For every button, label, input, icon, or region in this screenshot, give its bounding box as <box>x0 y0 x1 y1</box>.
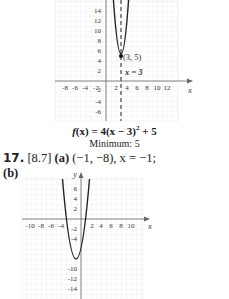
bottom-x-label: -6 <box>48 222 54 230</box>
part-a-label: (a) <box>54 151 69 165</box>
bottom-y-label: -2 <box>71 225 77 233</box>
charts-canvas: 14 12 10 8 6 4 2 2 -4 -6 -8 -6 -4 -2 2 4… <box>0 0 229 299</box>
bottom-x-label: 4 <box>99 222 103 230</box>
bottom-y-label: -14 <box>68 285 78 293</box>
top-x-label: 10 <box>154 84 162 92</box>
top-x-label: 4 <box>125 84 129 92</box>
axis-of-symmetry-label: x = 3 <box>124 67 143 77</box>
bottom-x-label: 8 <box>119 222 123 230</box>
top-y-label: 12 <box>94 17 102 25</box>
problem-section: [8.7] <box>27 151 51 165</box>
top-x-label: -2 <box>93 84 99 92</box>
problem-number: 17. <box>3 151 24 165</box>
top-x-label: -6 <box>72 84 78 92</box>
top-y-label: 10 <box>94 27 102 35</box>
part-b-label: (b) <box>3 166 18 181</box>
bottom-y-label: -4 <box>71 235 77 243</box>
equation-body: (x) = 4(x − 3) <box>76 125 136 137</box>
top-grid <box>55 0 178 121</box>
function-equation: f(x) = 4(x − 3)2 + 5 <box>0 124 229 137</box>
top-x-label: 2 <box>114 84 118 92</box>
bottom-x-label: 6 <box>109 222 113 230</box>
top-y-label: 8 <box>98 37 102 45</box>
top-x-label: 12 <box>164 84 172 92</box>
bottom-chart: 6 4 2 -2 -4 -10 -12 -14 -10 -8 -6 -4 2 4… <box>22 170 152 299</box>
bottom-x-axis-label: x <box>147 222 152 231</box>
bottom-y-axis-label: y <box>72 170 77 179</box>
top-y-label: 2 <box>98 67 102 75</box>
top-x-label: 8 <box>145 84 149 92</box>
top-y-label: 4 <box>98 57 102 65</box>
bottom-y-label: -10 <box>68 265 78 273</box>
vertex-label: (3, 5) <box>123 52 142 62</box>
bottom-y-label: 6 <box>74 185 78 193</box>
bottom-y-axis-arrow-icon <box>79 172 84 178</box>
part-a-answer: (−1, −8), x = −1; <box>72 151 156 165</box>
bottom-x-label: 10 <box>128 222 136 230</box>
bottom-x-label: -4 <box>58 222 64 230</box>
top-x-label: -4 <box>82 84 88 92</box>
bottom-y-label: -12 <box>68 275 78 283</box>
equation-tail: + 5 <box>140 125 157 137</box>
top-chart: 14 12 10 8 6 4 2 2 -4 -6 -8 -6 -4 -2 2 4… <box>55 0 193 121</box>
top-y-label: 6 <box>98 47 102 55</box>
bottom-x-label: -8 <box>38 222 44 230</box>
bottom-y-label: 2 <box>74 205 78 213</box>
problem-17: 17. [8.7] (a) (−1, −8), x = −1; <box>3 151 156 166</box>
bottom-y-label: 4 <box>74 195 78 203</box>
top-x-label: -8 <box>62 84 68 92</box>
bottom-x-axis-arrow-icon <box>144 217 150 222</box>
top-y-label: 14 <box>94 7 102 15</box>
top-y-label: -6 <box>95 108 101 116</box>
top-y-label: -4 <box>95 98 101 106</box>
bottom-x-label: -10 <box>25 222 35 230</box>
bottom-x-label: 2 <box>90 222 94 230</box>
top-x-axis-label: x <box>187 86 192 95</box>
minimum-caption: Minimum: 5 <box>0 138 229 149</box>
top-x-label: 6 <box>135 84 139 92</box>
top-x-axis-arrow-icon <box>187 79 193 84</box>
